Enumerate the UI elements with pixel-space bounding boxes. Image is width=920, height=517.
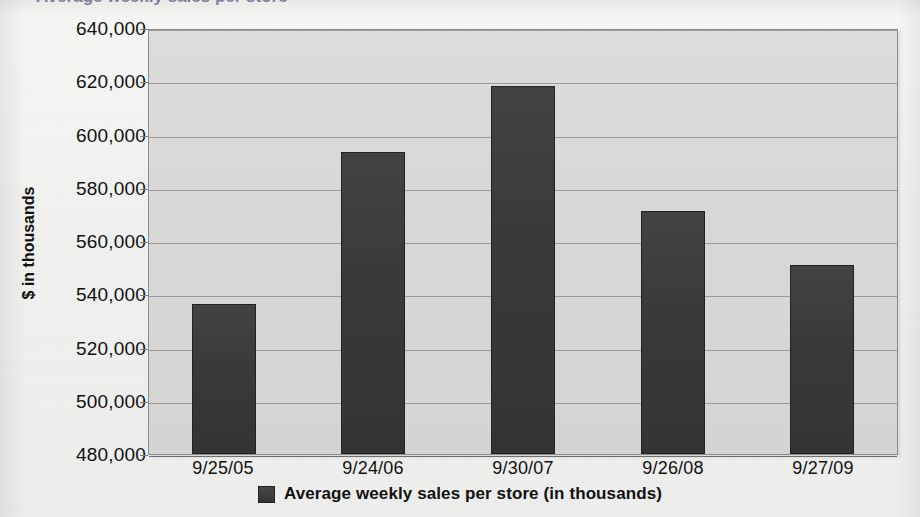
x-tick-label: 9/30/07 [448, 458, 598, 484]
bar-slot [747, 30, 897, 454]
x-tick-label: 9/25/05 [148, 458, 298, 484]
y-tick-mark [140, 189, 148, 190]
y-tick-label: 560,000 [26, 231, 146, 253]
bar-series [149, 30, 897, 454]
y-tick-label: 620,000 [26, 71, 146, 93]
y-tick-label: 640,000 [26, 18, 146, 40]
legend-label: Average weekly sales per store (in thous… [284, 484, 662, 504]
y-tick-mark [140, 242, 148, 243]
y-tick-label: 500,000 [26, 391, 146, 413]
y-tick-mark [140, 402, 148, 403]
x-axis-tick-labels: 9/25/059/24/069/30/079/26/089/27/09 [148, 458, 898, 484]
bar-9-24-06[interactable] [341, 152, 405, 454]
bar-slot [598, 30, 748, 454]
bar-9-27-09[interactable] [790, 265, 854, 454]
y-tick-mark [140, 455, 148, 456]
x-tick-label: 9/24/06 [298, 458, 448, 484]
bar-slot [149, 30, 299, 454]
legend: Average weekly sales per store (in thous… [0, 484, 920, 504]
y-tick-mark [140, 295, 148, 296]
y-tick-mark [140, 82, 148, 83]
y-tick-mark [140, 349, 148, 350]
bar-slot [299, 30, 449, 454]
bar-9-26-08[interactable] [641, 211, 705, 454]
x-tick-label: 9/26/08 [598, 458, 748, 484]
y-tick-mark [140, 29, 148, 30]
y-tick-label: 520,000 [26, 338, 146, 360]
bar-9-25-05[interactable] [192, 304, 256, 454]
plot-area [148, 29, 898, 455]
bar-9-30-07[interactable] [491, 86, 555, 454]
y-tick-mark [140, 136, 148, 137]
y-tick-label: 480,000 [26, 444, 146, 466]
cropped-title-fragment: Average weekly sales per store [36, 0, 456, 7]
legend-swatch-icon [258, 486, 275, 503]
y-tick-label: 540,000 [26, 284, 146, 306]
y-tick-label: 600,000 [26, 125, 146, 147]
chart-page: Average weekly sales per store $ in thou… [0, 0, 920, 517]
x-tick-label: 9/27/09 [748, 458, 898, 484]
gridline [149, 456, 897, 457]
y-tick-label: 580,000 [26, 178, 146, 200]
bar-slot [448, 30, 598, 454]
